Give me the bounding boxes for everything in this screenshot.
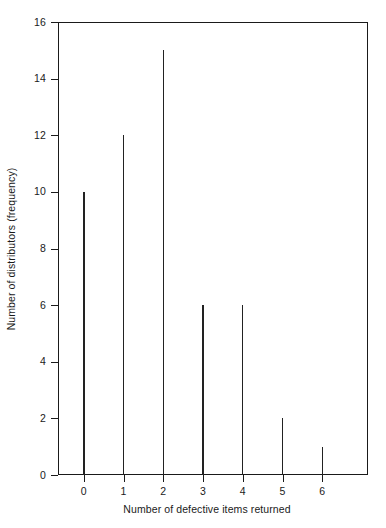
data-spike	[123, 135, 124, 475]
y-axis-title: Number of distributors (frequency)	[2, 0, 20, 497]
y-axis-tick	[51, 362, 58, 363]
data-spike	[83, 192, 84, 475]
y-axis-tick-label: 14	[34, 73, 46, 84]
x-axis-tick-label: 0	[74, 486, 94, 497]
data-series-frequency	[58, 22, 368, 475]
data-spike	[163, 50, 164, 475]
x-axis-title: Number of defective items returned	[0, 503, 386, 516]
y-axis-tick-label: 12	[34, 130, 46, 141]
y-axis-tick	[51, 22, 58, 23]
y-axis-title-text: Number of distributors (frequency)	[5, 167, 17, 330]
y-axis-tick-label: 8	[40, 243, 46, 254]
frequency-chart: 0246810121416 0123456 Number of distribu…	[0, 0, 386, 528]
y-axis-tick-label: 16	[34, 17, 46, 28]
x-axis-tick-label: 4	[233, 486, 253, 497]
x-axis-tick	[322, 475, 323, 482]
data-spike	[282, 418, 283, 475]
x-axis-tick	[124, 475, 125, 482]
y-axis-tick	[51, 305, 58, 306]
x-axis-tick	[243, 475, 244, 482]
y-axis-tick	[51, 192, 58, 193]
y-axis-tick-label: 0	[40, 470, 46, 481]
x-axis-tick-label: 1	[114, 486, 134, 497]
x-axis-tick-label: 3	[193, 486, 213, 497]
x-axis-tick	[163, 475, 164, 482]
y-axis-tick	[51, 249, 58, 250]
x-axis-tick-label: 2	[153, 486, 173, 497]
y-axis-tick	[51, 79, 58, 80]
y-axis-tick-label: 6	[40, 300, 46, 311]
x-axis-tick-label: 5	[273, 486, 293, 497]
y-axis-tick	[51, 475, 58, 476]
y-axis-tick	[51, 418, 58, 419]
data-spike	[242, 305, 243, 475]
y-axis-tick-label: 4	[40, 356, 46, 367]
data-spike	[202, 305, 203, 475]
y-axis-tick-label: 10	[34, 186, 46, 197]
x-axis-tick-label: 6	[312, 486, 332, 497]
data-spike	[322, 447, 323, 475]
y-axis-tick	[51, 135, 58, 136]
x-axis-tick	[283, 475, 284, 482]
y-axis-tick-label: 2	[40, 413, 46, 424]
x-axis-tick	[84, 475, 85, 482]
x-axis-tick	[203, 475, 204, 482]
